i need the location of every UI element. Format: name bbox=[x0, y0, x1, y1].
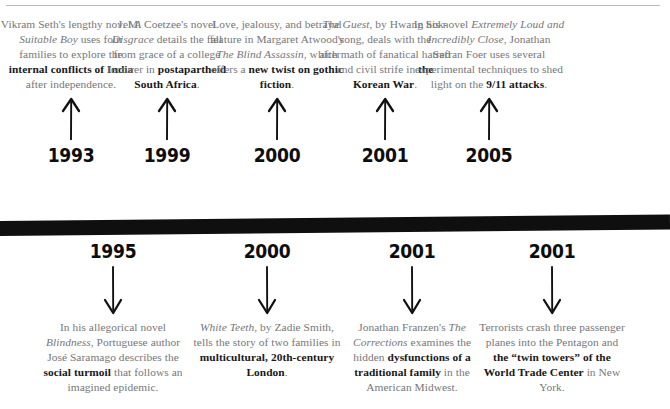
entry-year: 2001 bbox=[348, 240, 476, 263]
arrow-down-icon bbox=[339, 265, 485, 317]
entry-description: In his allegorical novel Blindness, Port… bbox=[37, 320, 189, 395]
entry-year: 2001 bbox=[488, 240, 616, 263]
timeline-entry-below-1: 2000 White Teeth, by Zadie Smith, tells … bbox=[193, 240, 341, 380]
arrow-down-icon bbox=[193, 265, 341, 317]
arrow-down-icon bbox=[37, 265, 189, 317]
entry-description: White Teeth, by Zadie Smith, tells the s… bbox=[193, 320, 341, 380]
timeline-entry-above-4: In his novel Extremely Loud and Incredib… bbox=[412, 17, 566, 167]
entry-year: 2000 bbox=[202, 240, 332, 263]
top-divider-rule bbox=[6, 5, 660, 6]
timeline-entry-below-2: 2001 Jonathan Franzen's The Corrections … bbox=[339, 240, 485, 395]
timeline-entry-below-0: 1995 In his allegorical novel Blindness,… bbox=[37, 240, 189, 395]
entry-description: Jonathan Franzen's The Corrections exami… bbox=[339, 320, 485, 395]
arrow-up-icon bbox=[412, 94, 566, 140]
entry-description: Terrorists crash three passenger planes … bbox=[479, 320, 625, 395]
entry-description: In his novel Extremely Loud and Incredib… bbox=[412, 17, 566, 92]
arrow-down-icon bbox=[479, 265, 625, 317]
entry-year: 1995 bbox=[46, 240, 180, 263]
entry-year: 2005 bbox=[421, 144, 557, 167]
timeline-bar bbox=[0, 215, 670, 236]
timeline-entry-below-3: 2001 Terrorists crash three passenger pl… bbox=[479, 240, 625, 395]
